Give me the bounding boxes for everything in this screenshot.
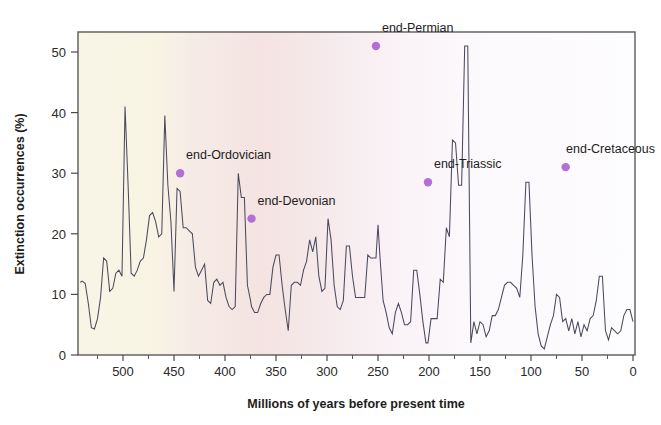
extinction-event-label: end-Triassic [434, 157, 502, 171]
y-tick-label: 20 [52, 227, 66, 242]
extinction-event-marker-dot [176, 169, 184, 177]
x-tick-label: 0 [629, 364, 636, 379]
extinction-event-label: end-Ordovician [186, 148, 271, 162]
x-tick-label: 250 [367, 364, 389, 379]
y-tick-label: 0 [59, 348, 66, 363]
x-tick-label: 50 [575, 364, 589, 379]
x-tick-label: 300 [316, 364, 338, 379]
extinction-event-marker-dot [561, 163, 569, 171]
x-tick-label: 500 [112, 364, 134, 379]
y-tick-label: 40 [52, 106, 66, 121]
plot-background [78, 32, 635, 355]
x-axis-ticks [98, 355, 634, 361]
y-axis-tick-labels: 01020304050 [52, 45, 66, 363]
extinction-event-marker-dot [424, 178, 432, 186]
chart-canvas: 500450400350300250200150100500 010203040… [0, 0, 661, 425]
x-tick-label: 150 [469, 364, 491, 379]
x-axis-tick-labels: 500450400350300250200150100500 [112, 364, 636, 379]
y-tick-label: 30 [52, 166, 66, 181]
extinction-event-label: end-Cretaceous [566, 142, 655, 156]
extinction-event-marker-dot [372, 42, 380, 50]
x-tick-label: 350 [265, 364, 287, 379]
x-tick-label: 100 [520, 364, 542, 379]
x-tick-label: 400 [214, 364, 236, 379]
extinction-chart-figure: 500450400350300250200150100500 010203040… [0, 0, 661, 425]
extinction-event-label: end-Devonian [258, 194, 336, 208]
x-tick-label: 200 [418, 364, 440, 379]
y-axis-ticks [71, 52, 78, 355]
x-tick-label: 450 [163, 364, 185, 379]
extinction-event-label: end-Permian [382, 21, 454, 35]
y-tick-label: 50 [52, 45, 66, 60]
y-tick-label: 10 [52, 287, 66, 302]
x-axis-title: Millions of years before present time [247, 397, 464, 411]
extinction-event-marker-dot [247, 214, 255, 222]
y-axis-title: Extinction occurrences (%) [13, 113, 27, 274]
